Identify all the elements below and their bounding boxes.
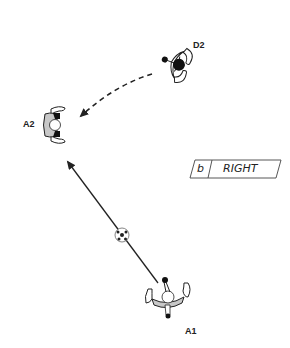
tag-letter: b	[197, 162, 204, 175]
soccer-ball-icon	[115, 228, 129, 242]
pass-arrow	[68, 162, 158, 283]
player-a2-icon	[44, 107, 66, 144]
player-d2-icon	[156, 42, 195, 86]
dashed-run-arrow	[81, 74, 152, 116]
player-a2-label: A2	[23, 119, 35, 129]
player-a1-label: A1	[185, 326, 197, 336]
tag-text: RIGHT	[223, 162, 257, 175]
player-a1-icon	[145, 277, 190, 319]
player-d2-label: D2	[193, 40, 205, 50]
